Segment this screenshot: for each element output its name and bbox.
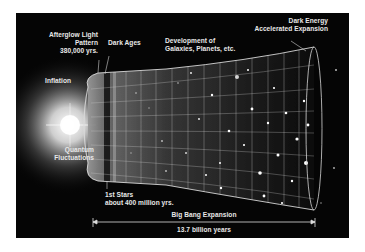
- label-big-bang-expansion: Big Bang Expansion: [93, 211, 315, 219]
- label-line: about 400 million yrs.: [105, 199, 174, 207]
- label-line: Afterglow Light: [34, 31, 98, 39]
- label-line: Accelerated Expansion: [244, 25, 328, 33]
- label-line: 1st Stars: [105, 191, 174, 199]
- label-line: Dark Energy: [244, 17, 328, 25]
- label-line: Fluctuations: [30, 154, 94, 162]
- label-quantum-fluctuations: Quantum Fluctuations: [30, 146, 94, 162]
- label-line: Development of: [165, 37, 235, 45]
- universe-timeline-diagram: Afterglow Light Pattern 380,000 yrs. Dar…: [16, 13, 349, 238]
- label-afterglow-light: Afterglow Light Pattern 380,000 yrs.: [34, 31, 98, 55]
- label-dark-energy: Dark Energy Accelerated Expansion: [244, 17, 328, 33]
- label-inflation: Inflation: [45, 77, 71, 85]
- label-dark-ages: Dark Ages: [108, 39, 141, 47]
- label-line: Galaxies, Planets, etc.: [165, 45, 235, 53]
- label-duration: 13.7 billion years: [93, 226, 315, 234]
- label-development: Development of Galaxies, Planets, etc.: [165, 37, 235, 53]
- label-line: Pattern: [34, 39, 98, 47]
- label-line: 380,000 yrs.: [34, 47, 98, 55]
- label-line: Quantum: [30, 146, 94, 154]
- label-first-stars: 1st Stars about 400 million yrs.: [105, 191, 174, 207]
